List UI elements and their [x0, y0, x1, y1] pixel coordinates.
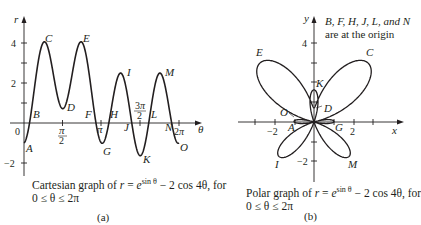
point-label-L: L — [150, 108, 157, 120]
point-label-N: N — [164, 121, 173, 133]
polar-label-D: D — [323, 102, 332, 114]
point-label-O: O — [180, 141, 188, 153]
polar-label-K: K — [315, 77, 324, 89]
caption-b-line1: Polar graph of r = esin θ − 2 cos 4θ, fo… — [246, 183, 421, 200]
theta-axis-label: θ — [198, 123, 204, 135]
polar-label-I: I — [274, 158, 280, 170]
polar-label-C: C — [366, 46, 374, 58]
x-axis-arrow-icon — [397, 120, 404, 125]
point-label-M: M — [164, 66, 175, 78]
caption-b-line2: 0 ≤ θ ≤ 2π — [246, 200, 421, 213]
r-axis-label: r — [14, 13, 19, 25]
y-axis-label: y — [303, 12, 309, 24]
polar-label-G: G — [335, 121, 343, 133]
sublabel-a: (a) — [97, 211, 109, 223]
x-tick-0: 0 — [15, 126, 20, 137]
polar-x-tick-2: 2 — [350, 126, 355, 137]
point-label-F: F — [84, 108, 92, 120]
x-axis-label: x — [391, 124, 397, 136]
polar-y-tick-4: 4 — [302, 38, 307, 49]
y-tick-neg2: −2 — [4, 158, 15, 169]
x-tick-pi-over-2: π 2 — [58, 124, 67, 146]
caption-a-line2: 0 ≤ θ ≤ 2π — [32, 192, 226, 205]
point-label-H: H — [109, 108, 119, 120]
y-axis-arrow-icon — [312, 16, 317, 23]
point-label-E: E — [82, 32, 90, 44]
svg-text:2: 2 — [59, 135, 64, 146]
r-axis-arrow-icon — [22, 16, 27, 23]
polar-x-tick-neg2: −2 — [267, 126, 278, 137]
origin-note-line2: are at the origin — [325, 28, 410, 41]
polar-d-leader — [316, 106, 322, 108]
polar-label-O: O — [280, 106, 288, 118]
x-tick-3pi-over-2: 3π 2 — [134, 100, 146, 121]
caption-a-line1: Cartesian graph of r = esin θ − 2 cos 4θ… — [32, 175, 226, 192]
cartesian-curve — [24, 42, 179, 156]
point-label-I: I — [126, 66, 132, 78]
point-label-K: K — [142, 153, 151, 165]
polar-y-tick-neg2: −2 — [297, 156, 308, 167]
point-label-B: B — [33, 108, 40, 120]
point-label-D: D — [66, 101, 75, 113]
x-tick-2pi: 2π — [174, 126, 185, 137]
caption-b: Polar graph of r = esin θ − 2 cos 4θ, fo… — [246, 183, 421, 213]
y-tick-4: 4 — [11, 38, 16, 49]
svg-text:2: 2 — [137, 110, 142, 121]
caption-a: Cartesian graph of r = esin θ − 2 cos 4θ… — [32, 175, 226, 205]
origin-note: B, F, H, J, L, and N are at the origin — [325, 15, 410, 41]
point-label-C: C — [45, 32, 53, 44]
polar-label-M: M — [347, 158, 358, 170]
y-tick-2: 2 — [11, 78, 16, 89]
polar-label-A: A — [287, 121, 295, 133]
origin-note-line1: B, F, H, J, L, and N — [325, 15, 410, 28]
point-label-A: A — [25, 142, 33, 154]
x-tick-pi: π — [97, 123, 103, 135]
point-label-G: G — [103, 145, 111, 157]
polar-label-E: E — [255, 46, 263, 58]
sublabel-b: (b) — [304, 210, 317, 222]
